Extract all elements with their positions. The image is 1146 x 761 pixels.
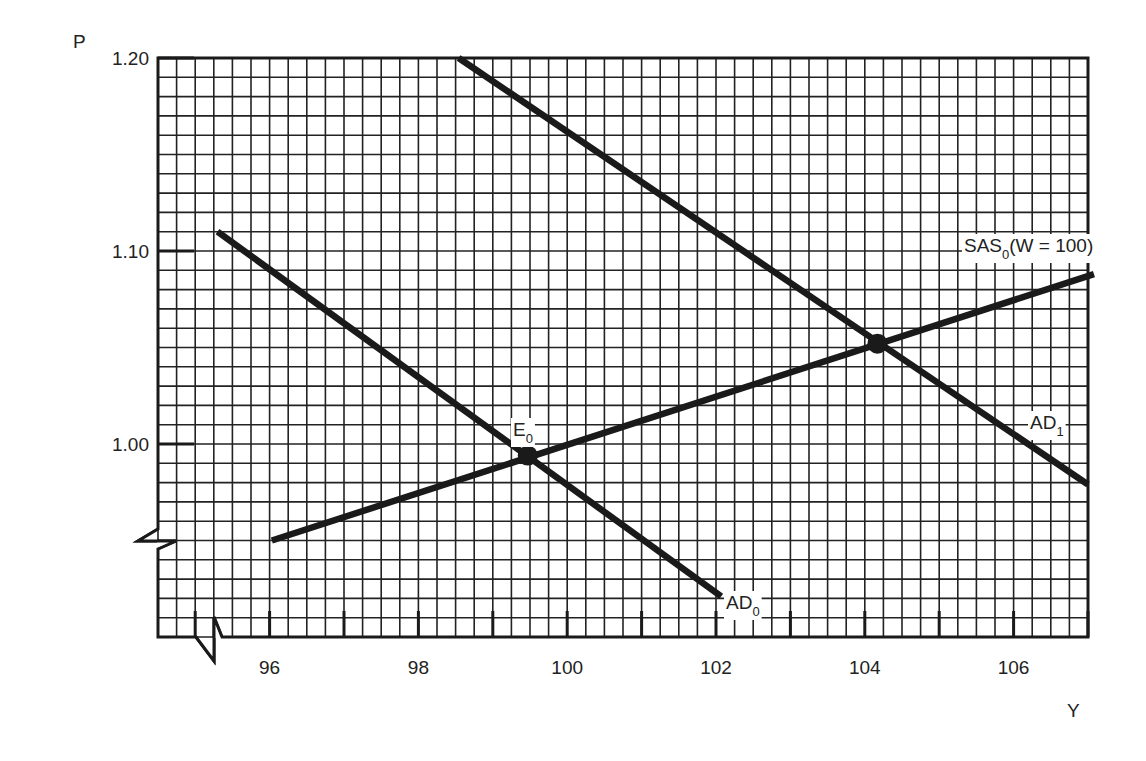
x-tick-label: 96	[259, 657, 280, 678]
plot-frame	[138, 58, 1088, 661]
chart: 96981001021041061.201.101.00PYSAS0(W = 1…	[0, 0, 1146, 761]
x-tick-label: 104	[849, 657, 881, 678]
y-tick-label: 1.10	[112, 241, 149, 262]
x-axis-label: Y	[1067, 700, 1080, 721]
point-e1	[867, 334, 887, 354]
x-tick-label: 100	[551, 657, 583, 678]
grid	[158, 58, 1088, 637]
y-axis-label: P	[73, 31, 86, 52]
y-tick-label: 1.00	[112, 434, 149, 455]
x-tick-label: 102	[700, 657, 732, 678]
axis-frame	[138, 58, 1088, 661]
series-ad1	[459, 58, 1088, 485]
series-lines	[218, 58, 1094, 596]
y-tick-label: 1.20	[112, 48, 149, 69]
series-ad0	[218, 232, 722, 597]
x-tick-label: 106	[998, 657, 1030, 678]
x-tick-label: 98	[408, 657, 429, 678]
point-e0	[518, 446, 538, 466]
